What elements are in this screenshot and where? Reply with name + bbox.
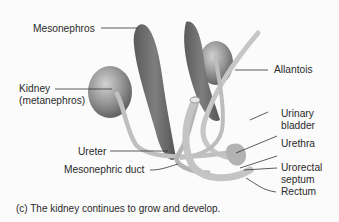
figure-caption: (c) The kidney continues to grow and dev… (16, 203, 220, 214)
label-urethra: Urethra (281, 138, 315, 150)
label-ureter: Ureter (78, 146, 106, 158)
label-urorectal: Urorectal (281, 162, 322, 174)
label-kidney: Kidney (19, 83, 50, 95)
label-urinary-bladder: bladder (281, 120, 315, 132)
label-mesonephros: Mesonephros (33, 23, 95, 35)
urinary-bladder-shape (226, 144, 246, 166)
left-mesonephros (134, 24, 176, 160)
hindgut-opening (190, 97, 200, 103)
label-rectum: Rectum (281, 186, 316, 198)
label-urinary: Urinary (281, 108, 314, 120)
label-allantois: Allantois (274, 64, 313, 76)
label-kidney-metanephros: (metanephros) (19, 95, 85, 107)
label-mesonephric-duct: Mesonephric duct (64, 164, 144, 176)
kidney-development-diagram: Mesonephros Kidney (metanephros) Allanto… (0, 0, 339, 222)
label-urorectal-septum: septum (281, 174, 314, 186)
